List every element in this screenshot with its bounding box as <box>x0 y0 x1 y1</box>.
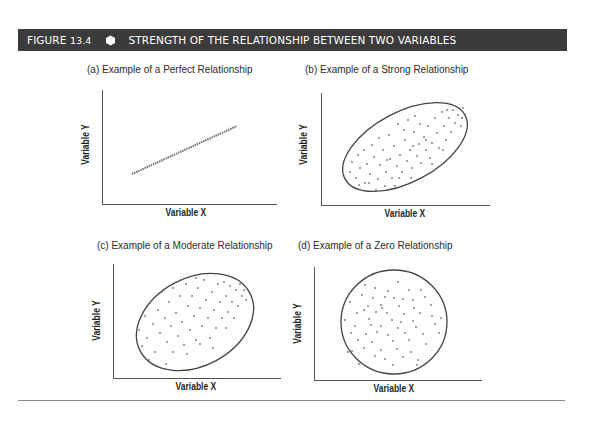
panel-b-plot <box>321 84 490 210</box>
panel-c-title: (c) Example of a Moderate Relationship <box>97 240 273 251</box>
panel-a-title: (a) Example of a Perfect Relationship <box>87 64 253 75</box>
figure-prefix: FIGURE <box>27 34 67 46</box>
hexagon-icon <box>105 35 116 46</box>
panel-d-title: (d) Example of a Zero Relationship <box>298 240 453 251</box>
figure-number: FIGURE 13.4 <box>27 34 92 46</box>
bottom-divider <box>18 400 565 401</box>
panel-b-ylabel: Variable Y <box>298 124 309 164</box>
panel-d-ylabel: Variable Y <box>292 303 303 343</box>
panel-a-xlabel: Variable X <box>166 207 207 218</box>
figure-header: FIGURE 13.4 STRENGTH OF THE RELATIONSHIP… <box>18 29 567 51</box>
figure-number-value: 13.4 <box>70 35 92 46</box>
panel-b-xlabel: Variable X <box>385 208 426 219</box>
panel-c-xlabel: Variable X <box>176 381 217 392</box>
panel-c-ylabel: Variable Y <box>91 300 102 340</box>
panel-c-plot <box>113 254 281 390</box>
panel-d-plot <box>314 267 482 381</box>
panel-b-title: (b) Example of a Strong Relationship <box>305 64 468 75</box>
panel-a-plot <box>102 90 277 205</box>
figure-title: STRENGTH OF THE RELATIONSHIP BETWEEN TWO… <box>129 34 457 46</box>
panel-d-xlabel: Variable X <box>374 383 415 394</box>
panel-a-ylabel: Variable Y <box>80 124 91 164</box>
